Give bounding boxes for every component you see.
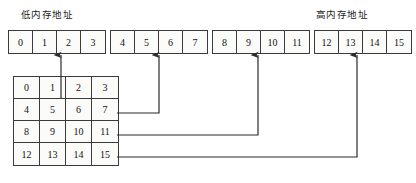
memory-cell[interactable]: 6 <box>159 31 183 53</box>
memory-cell[interactable]: 3 <box>81 31 105 53</box>
low-memory-address-label: 低内存地址 <box>21 9 73 21</box>
memory-cell[interactable]: 14 <box>363 31 387 53</box>
memory-cell[interactable]: 4 <box>111 31 135 53</box>
matrix-cell[interactable]: 4 <box>14 99 40 121</box>
memory-cell[interactable]: 15 <box>387 31 411 53</box>
matrix-cell[interactable]: 8 <box>14 121 40 143</box>
memory-cell[interactable]: 2 <box>57 31 81 53</box>
matrix-cell[interactable]: 6 <box>66 99 92 121</box>
matrix-cell[interactable]: 9 <box>40 121 66 143</box>
matrix-cell[interactable]: 5 <box>40 99 66 121</box>
memory-layout-diagram: 低内存地址 高内存地址 0123456789101112131415 01234… <box>0 0 416 183</box>
memory-cell[interactable]: 13 <box>339 31 363 53</box>
memory-strip-group: 891011 <box>212 30 310 54</box>
row-4-to-strip <box>117 55 357 157</box>
matrix-cell[interactable]: 1 <box>40 77 66 99</box>
memory-cell[interactable]: 12 <box>315 31 339 53</box>
matrix-cell[interactable]: 2 <box>66 77 92 99</box>
memory-strip: 0123456789101112131415 <box>8 30 412 54</box>
high-memory-address-label: 高内存地址 <box>316 9 368 21</box>
matrix-row: 0123 <box>14 77 118 99</box>
memory-cell[interactable]: 7 <box>183 31 207 53</box>
matrix-cell[interactable]: 12 <box>14 143 40 165</box>
memory-cell[interactable]: 5 <box>135 31 159 53</box>
memory-cell[interactable]: 10 <box>261 31 285 53</box>
matrix-cell[interactable]: 0 <box>14 77 40 99</box>
matrix-row: 12131415 <box>14 143 118 165</box>
memory-cell[interactable]: 0 <box>9 31 33 53</box>
matrix-cell[interactable]: 10 <box>66 121 92 143</box>
matrix-cell[interactable]: 14 <box>66 143 92 165</box>
memory-cell[interactable]: 11 <box>285 31 309 53</box>
matrix-cell[interactable]: 11 <box>92 121 118 143</box>
matrix-cell[interactable]: 15 <box>92 143 118 165</box>
memory-cell[interactable]: 9 <box>237 31 261 53</box>
row-2-to-strip <box>117 55 159 113</box>
array-matrix: 0123456789101112131415 <box>13 76 119 166</box>
matrix-row: 891011 <box>14 121 118 143</box>
memory-strip-group: 4567 <box>110 30 208 54</box>
matrix-cell[interactable]: 13 <box>40 143 66 165</box>
matrix-cell[interactable]: 3 <box>92 77 118 99</box>
matrix-cell[interactable]: 7 <box>92 99 118 121</box>
memory-cell[interactable]: 8 <box>213 31 237 53</box>
row-3-to-strip <box>117 55 258 135</box>
memory-cell[interactable]: 1 <box>33 31 57 53</box>
memory-strip-group: 12131415 <box>314 30 412 54</box>
matrix-row: 4567 <box>14 99 118 121</box>
memory-strip-group: 0123 <box>8 30 106 54</box>
